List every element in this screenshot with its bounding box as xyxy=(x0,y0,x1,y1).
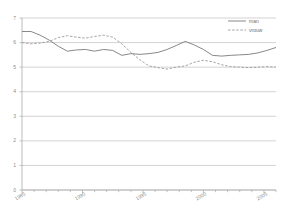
x-axis-ticks xyxy=(22,190,276,194)
y-tick-label: 0 xyxy=(4,188,16,193)
series-line-man xyxy=(22,32,276,57)
chart-plot-area xyxy=(0,0,290,219)
y-tick-label: 5 xyxy=(4,65,16,70)
legend-label-man: man xyxy=(249,18,259,24)
legend-label-vrouw: vrouw xyxy=(249,27,262,33)
y-tick-label: 2 xyxy=(4,138,16,143)
y-tick-label: 6 xyxy=(4,40,16,45)
y-tick-label: 3 xyxy=(4,114,16,119)
gridlines xyxy=(22,18,276,190)
series-line-vrouw xyxy=(22,35,276,69)
y-tick-label: 4 xyxy=(4,89,16,94)
y-tick-label: 7 xyxy=(4,16,16,21)
y-tick-label: 1 xyxy=(4,163,16,168)
chart-container: 01234567 19851990199520002005 man vrouw xyxy=(0,0,290,219)
